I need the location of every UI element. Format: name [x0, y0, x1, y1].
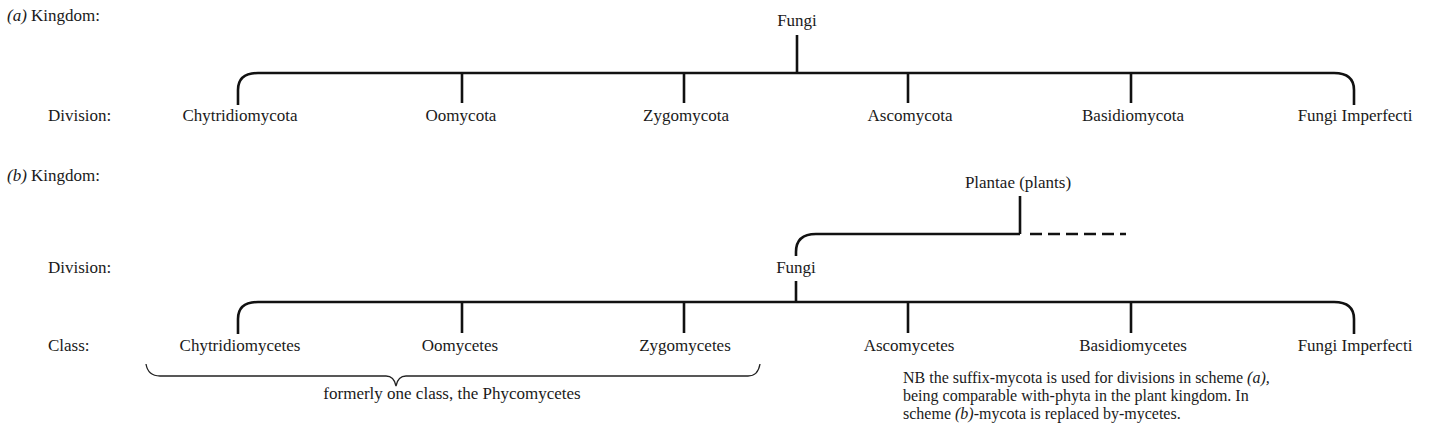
class-ascomycetes: Ascomycetes — [864, 336, 955, 356]
class-chytridiomycetes: Chytridiomycetes — [180, 336, 301, 356]
scheme-b-division-label: Division: — [48, 258, 111, 278]
division-zygomycota: Zygomycota — [643, 106, 729, 126]
class-fungi-imperfecti: Fungi Imperfecti — [1298, 336, 1413, 356]
scheme-a-division-label: Division: — [48, 106, 111, 126]
footnote-line-2: being comparable with-phyta in the plant… — [903, 387, 1423, 405]
scheme-a-kingdom-label: (a) Kingdom: — [7, 6, 100, 26]
scheme-b-class-label: Class: — [48, 336, 90, 356]
footnote-line-1: NB the suffix-mycota is used for divisio… — [903, 369, 1423, 387]
scheme-b-kingdom-plantae: Plantae (plants) — [965, 173, 1071, 193]
class-basidiomycetes: Basidiomycetes — [1079, 336, 1187, 356]
scheme-a-kingdom-fungi: Fungi — [777, 11, 817, 31]
division-basidiomycota: Basidiomycota — [1082, 106, 1184, 126]
division-ascomycota: Ascomycota — [868, 106, 953, 126]
class-zygomycetes: Zygomycetes — [639, 336, 731, 356]
division-fungi-imperfecti: Fungi Imperfecti — [1298, 106, 1413, 126]
scheme-b-kingdom-label: (b) Kingdom: — [7, 166, 100, 186]
footnote-line-3: scheme (b)-mycota is replaced by-mycetes… — [903, 405, 1423, 423]
footnote: NB the suffix-mycota is used for divisio… — [903, 369, 1423, 423]
brace-caption: formerly one class, the Phycomycetes — [323, 384, 580, 404]
class-oomycetes: Oomycetes — [422, 336, 498, 356]
division-chytridiomycota: Chytridiomycota — [182, 106, 297, 126]
division-oomycota: Oomycota — [426, 106, 497, 126]
scheme-b-division-fungi: Fungi — [776, 258, 816, 278]
